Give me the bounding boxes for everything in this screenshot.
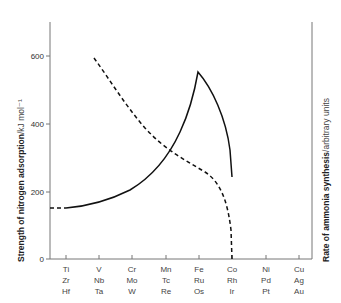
y-tick-600: 600 [31, 52, 45, 61]
x-ticks [66, 255, 299, 259]
y-ticks: 0 200 400 600 [31, 52, 50, 264]
svg-text:Cu: Cu [294, 265, 304, 274]
y-axis-title: Strength of nitrogen adsorption/kJ mol⁻¹ [16, 99, 26, 262]
svg-text:Ru: Ru [194, 276, 204, 285]
chart: 0 200 400 600 Ti Zr Hf V Nb Ta Cr Mo W M… [0, 0, 341, 303]
svg-text:Mn: Mn [160, 265, 171, 274]
svg-text:Nb: Nb [94, 276, 105, 285]
svg-text:V: V [96, 265, 102, 274]
y-tick-0: 0 [40, 255, 45, 264]
y-tick-200: 200 [31, 188, 45, 197]
svg-text:Os: Os [194, 287, 204, 296]
svg-text:Mo: Mo [126, 276, 138, 285]
svg-text:Zr: Zr [62, 276, 70, 285]
svg-text:Hf: Hf [62, 287, 71, 296]
y-tick-400: 400 [31, 120, 45, 129]
svg-text:Re: Re [161, 287, 172, 296]
svg-text:Tc: Tc [162, 276, 170, 285]
svg-text:Au: Au [294, 287, 304, 296]
svg-text:W: W [128, 287, 136, 296]
svg-text:Pd: Pd [261, 276, 271, 285]
svg-text:Pt: Pt [262, 287, 270, 296]
svg-text:Ag: Ag [294, 276, 304, 285]
x-category-labels: Ti Zr Hf V Nb Ta Cr Mo W Mn Tc Re Fe Ru … [62, 265, 304, 296]
svg-text:Co: Co [227, 265, 238, 274]
series-nitrogen-adsorption [94, 58, 232, 259]
svg-text:Rh: Rh [227, 276, 237, 285]
svg-text:Ir: Ir [230, 287, 235, 296]
svg-text:Cr: Cr [128, 265, 137, 274]
y2-axis-title: Rate of ammonia synthesis/arbitrary unit… [321, 98, 331, 262]
svg-text:Ta: Ta [95, 287, 104, 296]
svg-text:Fe: Fe [194, 265, 204, 274]
svg-text:Ti: Ti [63, 265, 70, 274]
series-ammonia-rate [66, 72, 232, 208]
svg-text:Ni: Ni [262, 265, 270, 274]
